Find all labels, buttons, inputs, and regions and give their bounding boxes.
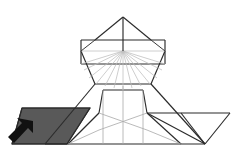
origami-diagram: Origami folding step diagram Line-drawin… [0,0,246,158]
origami-model [0,0,246,158]
